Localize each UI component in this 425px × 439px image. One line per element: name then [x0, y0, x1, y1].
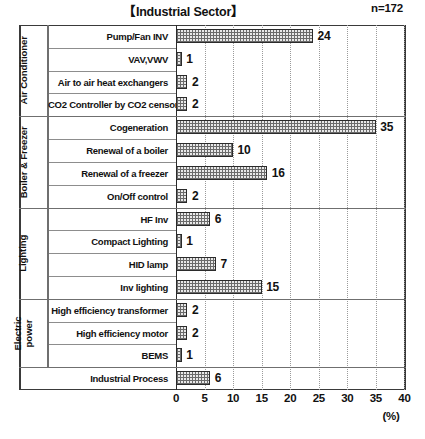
bar-row[interactable]: On/Off control2	[48, 185, 406, 208]
bar-value-label: 16	[272, 162, 285, 185]
bar-value-label: 2	[192, 93, 198, 116]
bar-row[interactable]: Air to air heat exchangers2	[48, 71, 406, 94]
bar-category-label: BEMS	[48, 344, 172, 367]
bar-category-label: Industrial Process	[48, 367, 172, 390]
x-tick-label-25: 25	[313, 392, 325, 404]
x-tick-label-5: 5	[201, 392, 207, 404]
bar-value-label: 2	[192, 322, 198, 345]
bar[interactable]	[176, 280, 262, 294]
bar[interactable]	[176, 212, 210, 226]
bar[interactable]	[176, 348, 182, 362]
bar-value-label: 10	[238, 139, 251, 162]
bar-row[interactable]: High efficiency motor2	[48, 322, 406, 345]
x-tick-label-15: 15	[256, 392, 268, 404]
bar-value-label: 1	[186, 48, 192, 71]
bar-row[interactable]: HID lamp7	[48, 253, 406, 276]
bar-value-label: 2	[192, 71, 198, 94]
bar-value-label: 2	[192, 299, 198, 322]
bar-category-label: VAV,VWV	[48, 48, 172, 71]
bar-row[interactable]: Renewal of a freezer16	[48, 162, 406, 185]
bar[interactable]	[176, 143, 233, 157]
bar-category-label: CO2 Controller by CO2 censor	[48, 93, 172, 116]
bar-row[interactable]: Pump/Fan INV24	[48, 25, 406, 48]
bar-row[interactable]: Renewal of a boiler10	[48, 139, 406, 162]
bar[interactable]	[176, 29, 313, 43]
bar-value-label: 35	[380, 116, 393, 139]
bar-row[interactable]: HF Inv6	[48, 208, 406, 231]
bar-value-label: 6	[215, 208, 221, 231]
bar-value-label: 15	[266, 276, 279, 299]
bar-value-label: 7	[220, 253, 226, 276]
bar[interactable]	[176, 303, 187, 317]
x-axis-unit-label: (%)	[383, 410, 400, 422]
bar[interactable]	[176, 189, 187, 203]
bar-category-label: Compact Lighting	[48, 230, 172, 253]
bar-value-label: 2	[192, 185, 198, 208]
chart-container: 【Industrial Sector】 n=172 Air Conditione…	[0, 0, 425, 439]
bar[interactable]	[176, 234, 182, 248]
sample-size-annotation: n=172	[371, 2, 403, 14]
x-tick-label-10: 10	[227, 392, 239, 404]
bar-category-label: Air to air heat exchangers	[48, 71, 172, 94]
x-tick-label-30: 30	[341, 392, 353, 404]
bar-value-label: 1	[186, 344, 192, 367]
x-tick-label-0: 0	[173, 392, 179, 404]
x-tick-label-40: 40	[398, 392, 410, 404]
bar-row[interactable]: CO2 Controller by CO2 censor2	[48, 93, 406, 116]
bar[interactable]	[176, 120, 376, 134]
bar[interactable]	[176, 97, 187, 111]
bar-category-label: Pump/Fan INV	[48, 25, 172, 48]
bar-category-label: High efficiency transformer	[48, 299, 172, 322]
bar-category-label: Cogeneration	[48, 116, 172, 139]
bar-value-label: 1	[186, 230, 192, 253]
bar-category-label: On/Off control	[48, 185, 172, 208]
bar-row[interactable]: Inv lighting15	[48, 276, 406, 299]
x-tick-label-35: 35	[370, 392, 382, 404]
bar[interactable]	[176, 166, 267, 180]
bar-row[interactable]: Industrial Process6	[48, 367, 406, 390]
bar-category-label: Inv lighting	[48, 276, 172, 299]
bar-category-label: Renewal of a boiler	[48, 139, 172, 162]
bar[interactable]	[176, 257, 216, 271]
bar[interactable]	[176, 326, 187, 340]
bar-category-label: High efficiency motor	[48, 322, 172, 345]
bar-category-label: Renewal of a freezer	[48, 162, 172, 185]
bar[interactable]	[176, 52, 182, 66]
bar-row[interactable]: Compact Lighting1	[48, 230, 406, 253]
x-tick-label-20: 20	[284, 392, 296, 404]
bar-row[interactable]: High efficiency transformer2	[48, 299, 406, 322]
bar[interactable]	[176, 75, 187, 89]
bar[interactable]	[176, 371, 210, 385]
bar-category-label: HF Inv	[48, 208, 172, 231]
bar-category-label: HID lamp	[48, 253, 172, 276]
bar-value-label: 6	[215, 367, 221, 390]
page-title: 【Industrial Sector】	[0, 1, 425, 20]
bar-row[interactable]: BEMS1	[48, 344, 406, 367]
bar-row[interactable]: Cogeneration35	[48, 116, 406, 139]
bar-row[interactable]: VAV,VWV1	[48, 48, 406, 71]
bar-value-label: 24	[318, 25, 331, 48]
